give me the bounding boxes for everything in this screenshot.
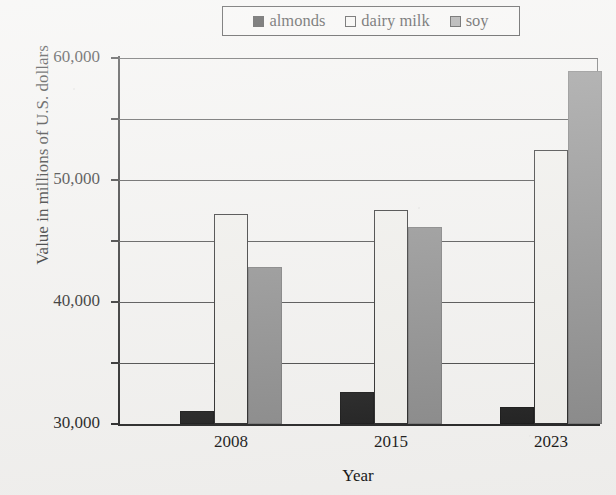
legend-label-soy: soy [466, 13, 489, 30]
legend-item-dairy-milk: dairy milk [345, 13, 429, 30]
y-axis-tick-label: 30,000 [53, 413, 100, 433]
legend-swatch-almonds-icon [253, 16, 264, 27]
bar-soy-2015 [408, 227, 442, 424]
bar-group-2015 [340, 58, 442, 424]
legend-swatch-soy-icon [450, 16, 461, 27]
y-axis-tick: 20,000 [111, 301, 119, 303]
legend-label-almonds: almonds [269, 13, 325, 30]
bar-dairy-milk-2008 [214, 214, 248, 424]
y-axis-tick-label: 40,000 [53, 291, 100, 311]
y-axis-tick: 50,000 [111, 118, 119, 120]
bar-dairy-milk-2023 [534, 150, 568, 424]
legend-label-dairy-milk: dairy milk [361, 13, 429, 30]
bar-almonds-2023 [500, 407, 534, 424]
y-axis-tick: 0 [111, 423, 119, 425]
x-axis-line [118, 424, 600, 426]
plot-area: 010,00020,00030,00040,00050,00060,000 20… [118, 58, 598, 424]
y-axis-tick-label: 60,000 [53, 47, 100, 67]
bar-chart: almonds dairy milk soy Value in millions… [0, 0, 616, 495]
bar-soy-2008 [248, 267, 282, 424]
bar-dairy-milk-2015 [374, 210, 408, 424]
bar-group-2023 [500, 58, 602, 424]
bar-soy-2023 [568, 71, 602, 424]
bar-almonds-2015 [340, 392, 374, 424]
bar-group-2008 [180, 58, 282, 424]
legend-swatch-dairy-milk-icon [345, 16, 356, 27]
y-axis-tick: 40,000 [111, 179, 119, 181]
y-axis-tick-label: 50,000 [53, 169, 100, 189]
x-axis-tick-label-2023: 2023 [491, 432, 611, 452]
legend-item-almonds: almonds [253, 13, 325, 30]
bar-almonds-2008 [180, 411, 214, 424]
y-axis-tick: 30,000 [111, 240, 119, 242]
x-axis-tick-label-2008: 2008 [171, 432, 291, 452]
y-axis-title: Value in millions of U.S. dollars [33, 0, 53, 320]
y-axis-tick: 10,000 [111, 362, 119, 364]
chart-legend: almonds dairy milk soy [222, 6, 520, 36]
legend-item-soy: soy [450, 13, 489, 30]
x-axis-tick-label-2015: 2015 [331, 432, 451, 452]
y-axis-tick: 60,000 [111, 57, 119, 59]
x-axis-title: Year [118, 466, 598, 486]
